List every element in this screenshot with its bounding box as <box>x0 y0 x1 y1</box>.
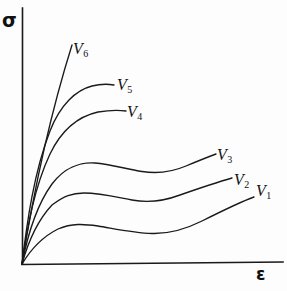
curve-label-v3-subscript: 3 <box>227 154 233 165</box>
curve-label-v2-base: V <box>234 171 244 188</box>
curve-label-v4-subscript: 4 <box>137 111 143 122</box>
curve-label-v1: V1 <box>256 183 271 201</box>
curve-label-v6-base: V <box>73 40 83 57</box>
curve-label-v3: V3 <box>217 147 232 165</box>
curve-label-v1-subscript: 1 <box>266 190 272 201</box>
curve-v3 <box>22 154 216 264</box>
y-axis-label-sigma: σ <box>2 11 17 30</box>
x-axis-line <box>22 262 283 265</box>
curve-label-v1-base: V <box>256 182 266 199</box>
curve-label-v5-base: V <box>117 76 127 93</box>
curve-label-v5: V5 <box>117 77 132 95</box>
curve-label-v2-subscript: 2 <box>244 179 250 190</box>
curve-label-v6: V6 <box>73 41 88 59</box>
curve-label-v6-subscript: 6 <box>83 48 89 59</box>
curve-label-v5-subscript: 5 <box>127 84 133 95</box>
x-axis-label-epsilon: ε <box>256 266 265 283</box>
curve-v1 <box>22 197 254 264</box>
curve-label-v4-base: V <box>127 103 137 120</box>
stress-strain-figure: σ ε V6 V5 V4 V3 V2 V1 <box>0 0 287 291</box>
curve-v4 <box>22 110 126 264</box>
curve-label-v4: V4 <box>127 104 142 122</box>
curve-label-v2: V2 <box>234 172 249 190</box>
plot-canvas <box>0 0 287 291</box>
curve-label-v3-base: V <box>217 146 227 163</box>
